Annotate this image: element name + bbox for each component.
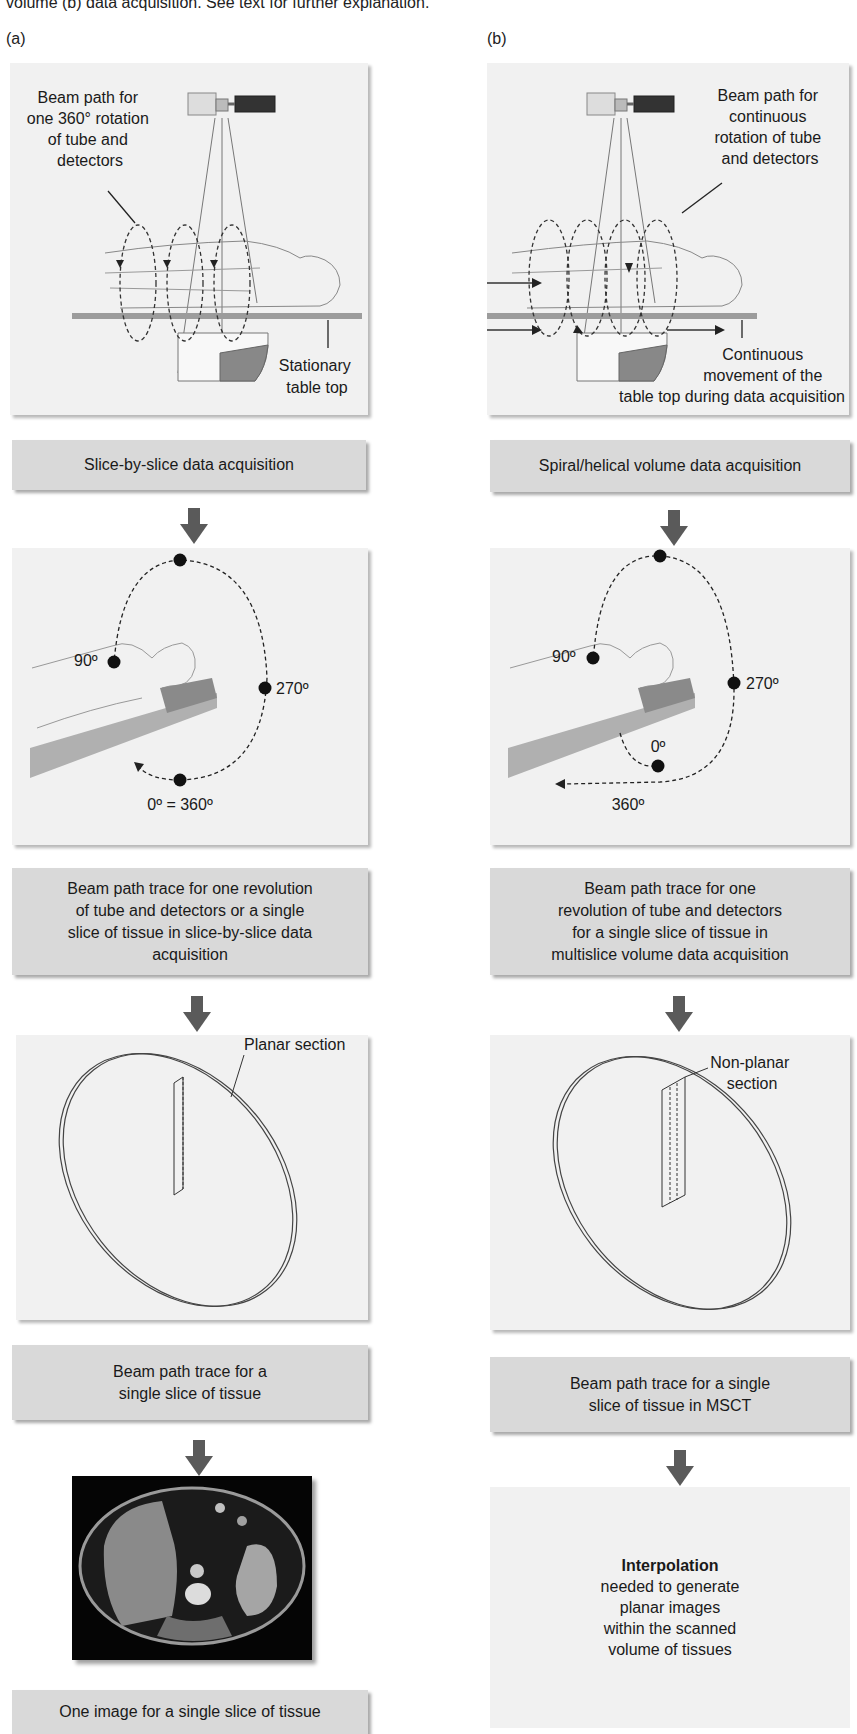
down-arrow-icon bbox=[660, 510, 688, 546]
ct-scan-image bbox=[72, 1476, 312, 1660]
angle-0-label: 0º = 360º bbox=[147, 796, 213, 813]
slice-scan-illustration-panel: Beam path for one 360° rotation of tube … bbox=[10, 63, 368, 415]
down-arrow-icon bbox=[180, 508, 208, 544]
angle-270-label: 270º bbox=[746, 675, 779, 692]
down-arrow-icon bbox=[185, 1440, 213, 1476]
helical-scan-illustration-panel: Beam path for continuous rotation of tub… bbox=[487, 63, 849, 415]
rotation-trace-panel-a: 180º 90º 270º 0º = 360º bbox=[12, 548, 368, 845]
ct-scanner-stationary-diagram: Beam path for one 360° rotation of tube … bbox=[10, 63, 368, 415]
down-arrow-icon bbox=[666, 1450, 694, 1486]
non-planar-section-diagram: Non-planar section bbox=[490, 1035, 850, 1330]
xray-tube-icon bbox=[188, 93, 275, 115]
planar-section-diagram: Planar section bbox=[16, 1035, 368, 1320]
rotation-trace-panel-b: 180º 90º 270º 0º 360º bbox=[490, 548, 850, 845]
ct-axial-slice-graphic bbox=[72, 1476, 312, 1660]
angle-270-label: 270º bbox=[276, 680, 309, 697]
column-a-label: (a) bbox=[6, 30, 26, 48]
rotation-trace-diagram-a: 180º 90º 270º 0º = 360º bbox=[12, 548, 368, 845]
ct-scanner-helical-diagram: Beam path for continuous rotation of tub… bbox=[487, 63, 849, 415]
spiral-helical-label: Spiral/helical volume data acquisition bbox=[490, 440, 850, 492]
angle-90-label: 90º bbox=[552, 648, 576, 665]
angle-0-label: 0º bbox=[651, 738, 666, 755]
one-image-label: One image for a single slice of tissue bbox=[12, 1690, 368, 1734]
column-b-label: (b) bbox=[487, 30, 507, 48]
beam-path-callout: Beam path for continuous rotation of tub… bbox=[714, 87, 825, 167]
figure-caption: volume (b) data acquisition. See text fo… bbox=[6, 0, 429, 12]
xray-tube-icon bbox=[587, 93, 674, 115]
planar-section-panel: Planar section bbox=[16, 1035, 368, 1320]
slice-by-slice-label: Slice-by-slice data acquisition bbox=[12, 440, 366, 490]
revolution-trace-label-a: Beam path trace for one revolution of tu… bbox=[12, 868, 368, 975]
down-arrow-icon bbox=[183, 996, 211, 1032]
table-callout: Stationary table top bbox=[279, 357, 356, 396]
angle-90-label: 90º bbox=[74, 652, 98, 669]
single-slice-trace-label-a: Beam path trace for a single slice of ti… bbox=[12, 1345, 368, 1420]
revolution-trace-label-b: Beam path trace for one revolution of tu… bbox=[490, 868, 850, 975]
interpolation-panel: Interpolation needed to generate planar … bbox=[490, 1487, 850, 1728]
angle-180-label: 180º bbox=[164, 548, 197, 549]
interpolation-title: Interpolation bbox=[622, 1555, 719, 1576]
planar-section-label: Planar section bbox=[244, 1036, 345, 1053]
angle-360-label: 360º bbox=[612, 796, 645, 813]
single-slice-trace-label-b: Beam path trace for a single slice of ti… bbox=[490, 1357, 850, 1432]
rotation-trace-diagram-b: 180º 90º 270º 0º 360º bbox=[490, 548, 850, 845]
down-arrow-icon bbox=[665, 996, 693, 1032]
non-planar-section-panel: Non-planar section bbox=[490, 1035, 850, 1330]
non-planar-section-label: Non-planar section bbox=[710, 1054, 794, 1092]
beam-path-callout: Beam path for one 360° rotation of tube … bbox=[27, 89, 154, 169]
